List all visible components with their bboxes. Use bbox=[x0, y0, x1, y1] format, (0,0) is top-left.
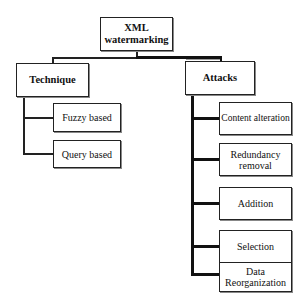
node-data-reorganization: Data Reorganization bbox=[219, 262, 292, 292]
node-query-based: Query based bbox=[53, 140, 121, 168]
node-redundancy-removal-line2: removal bbox=[239, 160, 272, 171]
node-fuzzy-based: Fuzzy based bbox=[53, 103, 121, 132]
node-selection: Selection bbox=[219, 230, 292, 263]
connector-addition bbox=[191, 202, 219, 205]
node-attacks-label: Attacks bbox=[203, 72, 237, 84]
node-technique: Technique bbox=[16, 63, 89, 97]
connector-content-alteration bbox=[191, 117, 219, 120]
node-xml-watermarking: XML watermarking bbox=[100, 17, 173, 51]
node-selection-label: Selection bbox=[237, 241, 274, 252]
node-xml-watermarking-line2: watermarking bbox=[104, 34, 168, 46]
node-content-alteration: Content alteration bbox=[219, 102, 292, 135]
connector-technique-trunk bbox=[23, 96, 25, 154]
node-content-alteration-label: Content alteration bbox=[221, 113, 289, 123]
node-data-reorganization-line1: Data bbox=[246, 266, 265, 277]
connector-query bbox=[23, 153, 53, 155]
node-attacks: Attacks bbox=[185, 61, 255, 95]
node-addition: Addition bbox=[219, 187, 292, 220]
connector-fuzzy bbox=[23, 117, 53, 119]
node-redundancy-removal: Redundancy removal bbox=[219, 143, 292, 176]
connector-data-reorganization bbox=[191, 273, 219, 276]
node-technique-label: Technique bbox=[29, 74, 75, 86]
node-query-based-label: Query based bbox=[62, 149, 112, 160]
node-data-reorganization-line2: Reorganization bbox=[225, 277, 286, 288]
node-fuzzy-based-label: Fuzzy based bbox=[62, 112, 112, 123]
node-redundancy-removal-line1: Redundancy bbox=[231, 149, 281, 160]
node-xml-watermarking-line1: XML bbox=[124, 22, 149, 34]
connector-redundancy-removal bbox=[191, 158, 219, 161]
node-addition-label: Addition bbox=[238, 198, 274, 209]
connector-attacks-shadow bbox=[186, 59, 222, 61]
connector-root-to-technique bbox=[52, 57, 137, 59]
connector-attacks-trunk bbox=[191, 94, 194, 275]
connector-selection bbox=[191, 245, 219, 248]
